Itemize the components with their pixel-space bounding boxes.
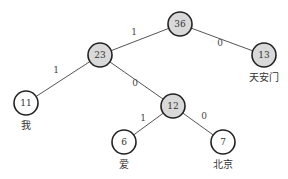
edge-label-12-6: 1 — [140, 113, 146, 123]
node-11: 11 — [14, 91, 38, 115]
edge-label-23-12: 0 — [132, 78, 138, 88]
node-23: 23 — [88, 43, 112, 67]
node-12: 12 — [161, 94, 185, 118]
edge-23-11 — [26, 55, 100, 103]
edge-label-36-13: 0 — [217, 38, 223, 48]
svg-text:23: 23 — [94, 50, 106, 60]
svg-text:36: 36 — [174, 19, 186, 29]
huffman-tree-diagram: 1 0 1 0 1 0 36 23 13 天安门 11 我 12 6 爱 7 北… — [0, 0, 288, 179]
node-13: 13 — [252, 43, 276, 67]
edge-36-23 — [100, 24, 180, 55]
leaf-label-beijing: 北京 — [213, 158, 233, 170]
svg-text:7: 7 — [220, 137, 226, 147]
edge-label-23-11: 1 — [53, 65, 59, 75]
node-6: 6 — [112, 130, 136, 154]
edge-label-36-23: 1 — [131, 27, 137, 37]
leaf-label-tiananmen: 天安门 — [249, 71, 279, 83]
node-36: 36 — [168, 12, 192, 36]
leaf-label-ai: 爱 — [119, 158, 129, 170]
svg-text:12: 12 — [167, 101, 178, 111]
svg-text:11: 11 — [20, 98, 31, 108]
node-7: 7 — [211, 130, 235, 154]
svg-text:6: 6 — [121, 137, 127, 147]
leaf-label-wo: 我 — [21, 120, 31, 131]
edge-label-12-7: 0 — [201, 111, 207, 121]
svg-text:13: 13 — [258, 50, 270, 60]
